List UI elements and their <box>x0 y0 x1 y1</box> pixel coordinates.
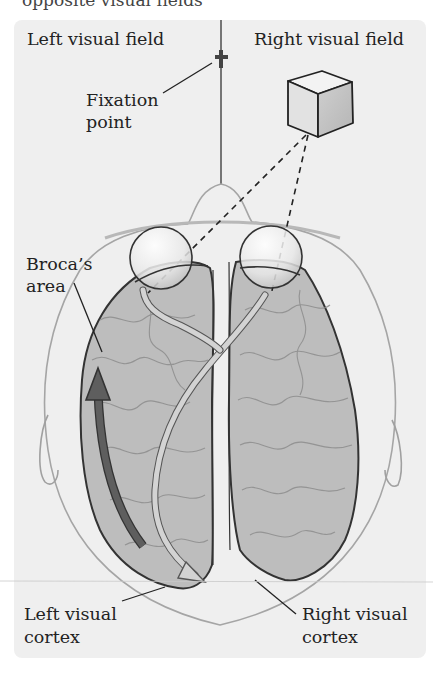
right-cortex-leader-line <box>255 580 296 614</box>
label-brocas-area-line1: Broca’s <box>26 254 93 275</box>
visual-pathway-diagram <box>0 0 433 675</box>
fixation-leader-line <box>163 63 212 93</box>
left-cortex-leader-line <box>122 587 165 601</box>
label-left-visual-cortex-line1: Left visual <box>24 604 117 625</box>
label-right-visual-cortex-line1: Right visual <box>302 604 408 625</box>
brocas-leader-line <box>74 283 102 352</box>
label-brocas-area-line2: area <box>26 276 66 297</box>
cube-stimulus-icon <box>288 71 353 137</box>
fixation-cross-icon <box>215 50 228 68</box>
label-left-visual-field: Left visual field <box>27 29 164 50</box>
right-eye-icon <box>240 226 302 288</box>
label-left-visual-cortex-line2: cortex <box>24 627 80 648</box>
label-fixation-point-line2: point <box>86 112 132 133</box>
label-fixation-point-line1: Fixation <box>86 90 158 111</box>
label-right-visual-field: Right visual field <box>254 29 404 50</box>
label-right-visual-cortex-line2: cortex <box>302 627 358 648</box>
